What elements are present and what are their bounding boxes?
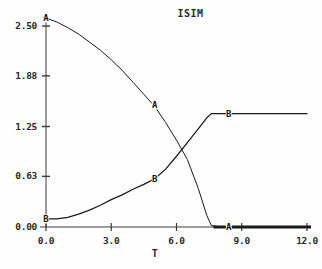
- chart-container: ISIM T 2.50 1.88 1.25 0.63 0.00 0.0 3.0 …: [0, 0, 322, 269]
- curve-label-b-start: B: [43, 214, 49, 223]
- plot-canvas: [0, 0, 322, 269]
- x-tick-label: 0.0: [38, 236, 54, 246]
- axes-group: [40, 15, 311, 227]
- data-series-group: [46, 18, 307, 227]
- x-tick-label: 12.0: [296, 236, 318, 246]
- curve-label-a-mid: A: [152, 100, 158, 109]
- chart-title: ISIM: [177, 8, 203, 19]
- y-tick-label: 0.63: [15, 172, 37, 182]
- x-tick-label: 3.0: [103, 236, 119, 246]
- curve-label-a-start: A: [43, 14, 49, 23]
- curve-label-b-mid: B: [152, 174, 158, 183]
- tick-marks-group: [42, 26, 307, 231]
- curve-label-a-end: A: [225, 223, 231, 232]
- curve-label-b-end: B: [225, 109, 231, 118]
- y-tick-label: 0.00: [15, 222, 37, 232]
- x-tick-label: 6.0: [168, 236, 184, 246]
- y-tick-label: 1.25: [15, 122, 37, 132]
- x-tick-label: 9.0: [234, 236, 250, 246]
- x-axis-title: T: [152, 248, 158, 259]
- y-tick-label: 2.50: [15, 21, 37, 31]
- y-tick-label: 1.88: [15, 71, 37, 81]
